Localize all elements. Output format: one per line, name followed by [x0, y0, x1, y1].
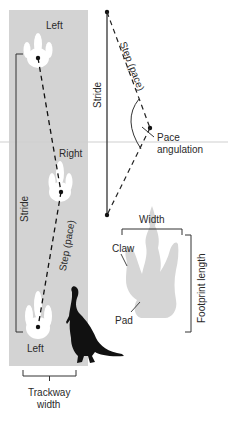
step-line [107, 128, 150, 215]
label-right: Right [59, 148, 82, 159]
trackway-width-bracket [23, 370, 76, 376]
label-width: Width [139, 214, 165, 225]
trackway-diagram [0, 0, 228, 425]
label-claw: Claw [112, 243, 134, 254]
label-stride-right: Stride [92, 82, 103, 108]
label-footprint-length: Footprint length [196, 254, 207, 324]
label-stride-panel: Stride [19, 196, 30, 222]
label-left-bottom: Left [27, 343, 44, 354]
label-pad: Pad [115, 315, 133, 326]
label-pace-angulation-1: Pace [157, 132, 180, 143]
length-bracket [185, 235, 191, 332]
label-trackway-width-2: width [37, 399, 60, 410]
label-trackway-width-1: Trackway [28, 387, 70, 398]
label-pace-angulation-2: angulation [157, 144, 203, 155]
label-left-top: Left [46, 20, 63, 31]
